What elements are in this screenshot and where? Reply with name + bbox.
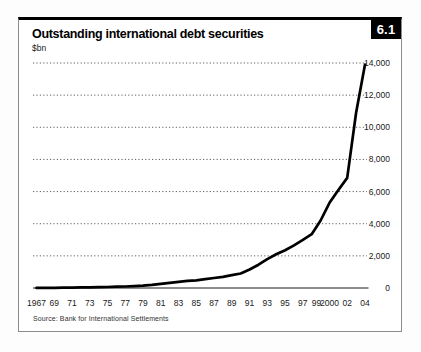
x-tick-label: 73 (85, 298, 95, 308)
x-tick-label: 2000 (320, 298, 339, 308)
x-tick-label: 95 (280, 298, 290, 308)
y-tick-label: 10,000 (364, 122, 390, 132)
x-tick-label: 91 (245, 298, 255, 308)
y-tick-label: 2,000 (369, 251, 391, 261)
x-tick-label: 89 (227, 298, 237, 308)
x-tick-label: 93 (263, 298, 273, 308)
x-tick-label: 02 (343, 298, 353, 308)
x-tick-label: 97 (298, 298, 308, 308)
plot-area: 02,0004,0006,0008,00010,00012,00014,0001… (0, 0, 421, 352)
x-tick-label: 71 (67, 298, 77, 308)
y-tick-label: 12,000 (364, 90, 390, 100)
x-tick-label: 04 (360, 298, 370, 308)
x-tick-label: 87 (209, 298, 219, 308)
x-tick-label: 81 (156, 298, 166, 308)
x-tick-label: 69 (50, 298, 60, 308)
x-tick-label: 1967 (27, 298, 46, 308)
x-tick-label: 75 (103, 298, 113, 308)
y-tick-label: 6,000 (369, 187, 391, 197)
data-line (37, 65, 366, 288)
x-tick-label: 79 (138, 298, 148, 308)
x-tick-label: 85 (192, 298, 202, 308)
x-tick-label: 83 (174, 298, 184, 308)
y-tick-label: 4,000 (369, 219, 391, 229)
y-tick-label: 8,000 (369, 154, 391, 164)
y-tick-label: 14,000 (364, 58, 390, 68)
figure-canvas: 6.1 Outstanding international debt secur… (0, 0, 421, 352)
x-tick-label: 77 (121, 298, 131, 308)
y-tick-label: 0 (385, 283, 390, 293)
